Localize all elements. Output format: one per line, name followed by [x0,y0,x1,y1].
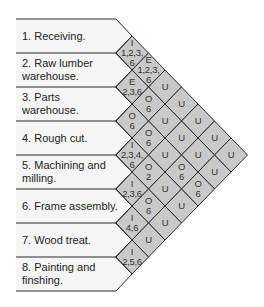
relationship-cell: U [200,133,230,143]
relationship-cell: U [150,150,180,160]
relationship-code: U [200,133,230,143]
department-label: 2. Raw lumber warehouse. [22,53,118,87]
relationship-cell: U [150,116,180,126]
relationship-reasons: 4,6 [117,223,147,233]
department-label: 6. Frame assembly. [22,189,118,223]
department-label: 3. Parts warehouse. [22,87,118,121]
relationship-cell: U [150,218,180,228]
department-label: 4. Rough cut. [22,121,118,155]
relationship-code: U [150,82,180,92]
relationship-code: U [167,133,197,143]
relationship-cell: U [150,82,180,92]
relationship-cell: U [134,235,164,245]
relationship-reasons: 2,5,6 [117,257,147,267]
relationship-cell: U [150,184,180,194]
department-label: 5. Machining and milling. [22,155,118,189]
relationship-cell: U [183,150,213,160]
department-label: 7. Wood treat. [22,223,118,257]
relationship-code: U [150,150,180,160]
relationship-code: U [167,201,197,211]
relationship-reasons: 6 [183,189,213,199]
relationship-code: U [150,184,180,194]
relationship-cell: U [216,150,246,160]
relationship-cell: U [200,167,230,177]
relationship-cell: U [167,133,197,143]
relationship-code: U [216,150,246,160]
relationship-cell: O6 [183,179,213,199]
relationship-code: U [183,150,213,160]
relationship-code: U [134,235,164,245]
relationship-cell: U [167,99,197,109]
relationship-cell: I2,5,6 [117,247,147,267]
relationship-cell: U [167,201,197,211]
relationship-code: U [150,218,180,228]
relationship-code: U [200,167,230,177]
relationship-code: U [167,99,197,109]
relationship-code: U [150,116,180,126]
relationship-cell: U [183,116,213,126]
relationship-cell: I4,6 [117,213,147,233]
department-label: 8. Painting and finshing. [22,257,118,291]
department-label: 1. Receiving. [22,19,118,53]
relationship-code: U [183,116,213,126]
